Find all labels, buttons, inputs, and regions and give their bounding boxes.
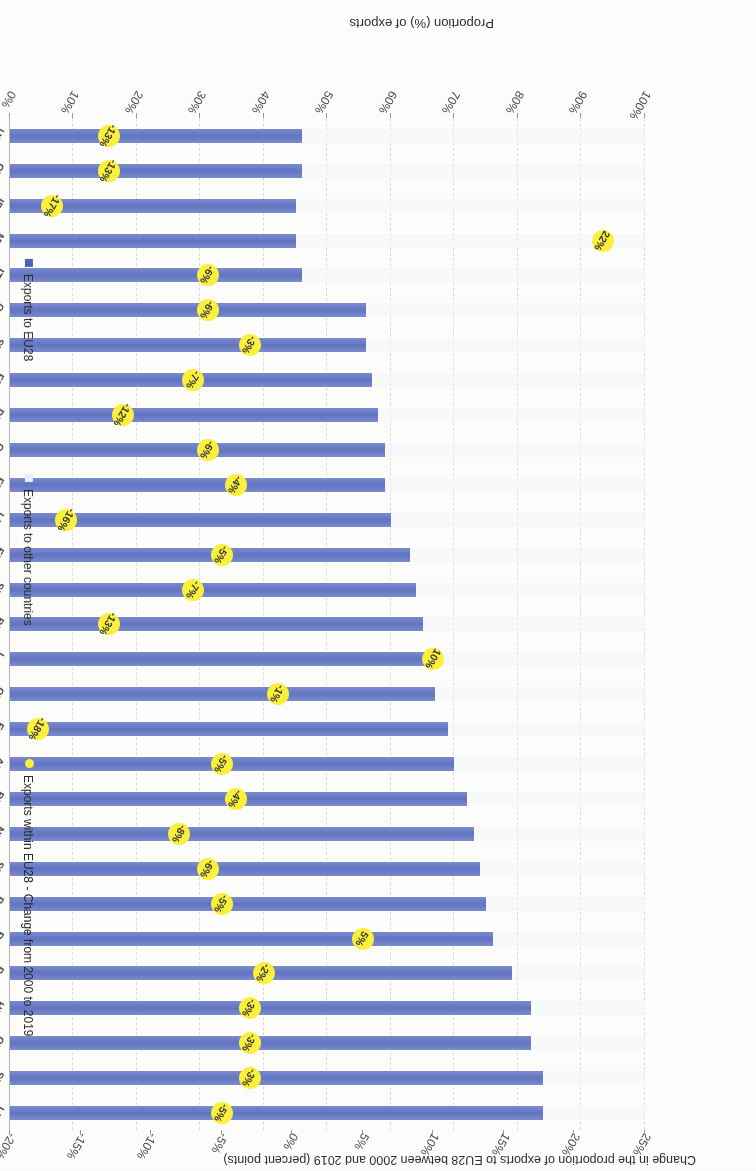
data-point-change-marker: -13%: [98, 125, 120, 147]
data-point-change-marker: -18%: [27, 718, 49, 740]
bar-exports-other-countries: [448, 722, 645, 736]
chart-row: -2%: [10, 956, 645, 991]
bar-exports-other-countries: [543, 1071, 645, 1085]
bar-exports-to-eu28: [10, 583, 416, 597]
data-point-change-marker: -3%: [239, 1032, 261, 1054]
chart-row: -6%: [10, 432, 645, 467]
data-point-change-marker: 22%: [592, 230, 614, 252]
data-point-label: -6%: [198, 299, 218, 321]
secondary-axis-tickmark: [80, 1130, 81, 1135]
bar-exports-to-eu28: [10, 862, 480, 876]
data-point-change-marker: -5%: [211, 544, 233, 566]
data-point-label: -6%: [198, 264, 218, 286]
primary-axis-tickmark: [517, 113, 518, 118]
chart-row: -6%: [10, 258, 645, 293]
bar-exports-other-countries: [435, 687, 645, 701]
chart-row: -5%: [10, 746, 645, 781]
bar-exports-other-countries: [543, 1106, 645, 1120]
bar-exports-to-eu28: [10, 652, 429, 666]
bar-exports-other-countries: [372, 373, 645, 387]
primary-axis-tickmark: [73, 113, 74, 118]
chart-row: 5%: [10, 921, 645, 956]
chart-row: -5%: [10, 886, 645, 921]
data-point-change-marker: -13%: [98, 613, 120, 635]
legend-marker-light-square-icon: [25, 474, 33, 482]
data-point-change-marker: -5%: [211, 1102, 233, 1124]
chart-row: -17%: [10, 188, 645, 223]
primary-axis-tick: 60%: [376, 89, 400, 117]
bar-exports-to-eu28: [10, 932, 493, 946]
bar-exports-other-countries: [391, 513, 645, 527]
bar-exports-other-countries: [416, 583, 645, 597]
primary-axis-tick: 70%: [439, 89, 463, 117]
data-point-change-marker: -6%: [197, 299, 219, 321]
data-point-label: 5%: [354, 929, 372, 948]
data-point-label: -5%: [212, 1102, 232, 1124]
primary-axis-tick: 0%: [0, 89, 19, 111]
data-point-label: -13%: [97, 157, 120, 184]
bar-exports-other-countries: [531, 1001, 645, 1015]
data-point-change-marker: -16%: [55, 509, 77, 531]
data-point-label: -12%: [112, 401, 135, 428]
data-point-change-marker: -4%: [225, 474, 247, 496]
legend-marker-blue-square-icon: [25, 259, 33, 267]
bar-exports-other-countries: [302, 164, 645, 178]
primary-axis-tick: 40%: [249, 89, 273, 117]
category-label-spain: SPAIN: [0, 580, 7, 614]
secondary-axis-tickmark: [9, 1130, 10, 1135]
bar-exports-other-countries: [385, 443, 645, 457]
data-point-change-marker: -3%: [239, 997, 261, 1019]
bar-exports-to-eu28: [10, 129, 302, 143]
data-point-label: -13%: [97, 611, 120, 638]
secondary-axis-tickmark: [221, 1130, 222, 1135]
bar-exports-other-countries: [512, 966, 645, 980]
legend-item-0: Exports to EU28: [21, 259, 35, 361]
data-point-change-marker: 10%: [422, 648, 444, 670]
secondary-axis-tickmark: [573, 1130, 574, 1135]
data-point-label: 10%: [423, 647, 444, 671]
chart-row: 22%: [10, 223, 645, 258]
secondary-axis-tickmark: [291, 1130, 292, 1135]
primary-axis-tickmark: [390, 113, 391, 118]
data-point-label: -1%: [268, 683, 288, 705]
bar-exports-other-countries: [531, 1036, 645, 1050]
secondary-axis-tick: -20%: [0, 1131, 19, 1162]
data-point-label: -3%: [240, 1032, 260, 1054]
chart-row: -3%: [10, 1060, 645, 1095]
bar-exports-to-eu28: [10, 338, 366, 352]
secondary-axis-tickmark: [644, 1130, 645, 1135]
primary-axis-tickmark: [454, 113, 455, 118]
bar-exports-to-eu28: [10, 164, 302, 178]
chart-row: -8%: [10, 816, 645, 851]
bar-exports-other-countries: [423, 617, 645, 631]
bar-exports-other-countries: [410, 548, 645, 562]
data-point-change-marker: -12%: [112, 404, 134, 426]
legend-item-1: Exports to other countries: [21, 474, 35, 626]
data-point-label: -18%: [27, 716, 50, 743]
chart-row: -5%: [10, 537, 645, 572]
secondary-axis-tick: -15%: [63, 1131, 89, 1162]
bar-exports-to-eu28: [10, 303, 366, 317]
bar-exports-to-eu28: [10, 1036, 531, 1050]
data-point-label: -4%: [226, 788, 246, 810]
bar-exports-to-eu28: [10, 234, 296, 248]
data-point-label: -17%: [41, 192, 64, 219]
bar-exports-to-eu28: [10, 827, 474, 841]
data-point-label: -8%: [169, 823, 189, 845]
legend-label: Exports to other countries: [21, 489, 35, 626]
bar-exports-other-countries: [486, 897, 645, 911]
data-point-label: -4%: [226, 474, 246, 496]
primary-axis-tick: 100%: [627, 89, 654, 123]
legend-marker-yellow-dot-icon: [25, 759, 34, 768]
data-point-label: 22%: [592, 228, 613, 252]
data-point-label: -16%: [55, 506, 78, 533]
data-point-label: -6%: [198, 439, 218, 461]
primary-axis-tickmark: [9, 113, 10, 118]
data-point-change-marker: -3%: [239, 1067, 261, 1089]
data-point-label: -6%: [198, 858, 218, 880]
chart-row: -13%: [10, 153, 645, 188]
data-point-change-marker: -6%: [197, 858, 219, 880]
primary-axis-tickmark: [200, 113, 201, 118]
data-point-change-marker: -5%: [211, 893, 233, 915]
data-point-label: -3%: [240, 334, 260, 356]
